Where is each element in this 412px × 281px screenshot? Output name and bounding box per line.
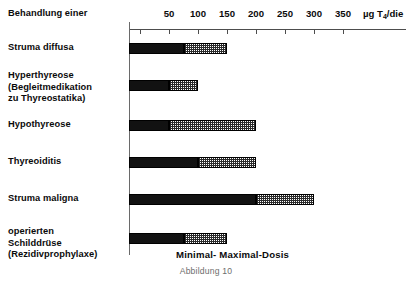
bar-hyperthyreose — [129, 80, 198, 91]
figure-caption: Abbildung 10 — [0, 266, 412, 276]
bar-segment-maximal — [198, 157, 256, 168]
x-axis-unit-text: µg T — [363, 8, 383, 19]
bar-segment-maximal — [184, 43, 228, 54]
x-tick-300 — [314, 30, 315, 34]
category-label-struma-maligna: Struma maligna — [8, 193, 126, 205]
category-label-operierte-schilddruese: operierten Schilddrüse (Rezidivprophylax… — [8, 226, 126, 261]
bar-segment-minimal — [129, 233, 184, 244]
x-tick-label-350: 350 — [335, 8, 351, 19]
bar-operierte-schilddruese — [129, 233, 227, 244]
x-tick-350 — [343, 30, 344, 34]
bar-struma-diffusa — [129, 43, 227, 54]
figure-chart-thyroid-dosing: Behandlung einer Struma diffusa Hyperthy… — [0, 0, 412, 281]
x-tick-100 — [198, 30, 199, 34]
x-axis-unit-tail: /die — [387, 8, 404, 19]
category-label-hypothyreose: Hypothyreose — [8, 119, 126, 131]
bar-segment-maximal — [256, 194, 314, 205]
x-tick-50 — [169, 30, 170, 34]
bar-thyreoiditis — [129, 157, 256, 168]
x-tick-label-50: 50 — [164, 8, 175, 19]
x-tick-label-100: 100 — [190, 8, 206, 19]
bar-segment-minimal — [129, 120, 169, 131]
category-label-line: operierten — [8, 226, 126, 238]
x-tick-label-250: 250 — [277, 8, 293, 19]
x-tick-label-300: 300 — [306, 8, 322, 19]
bar-segment-minimal — [129, 43, 184, 54]
bar-struma-maligna — [129, 194, 314, 205]
chart-row-header: Behandlung einer — [8, 8, 126, 20]
category-label-line: Hyperthyreose — [8, 70, 126, 82]
category-label-line: Schilddrüse — [8, 238, 126, 250]
category-label-line: (Begleitmedikation — [8, 82, 126, 94]
bar-segment-minimal — [129, 157, 198, 168]
x-tick-label-150: 150 — [219, 8, 235, 19]
x-tick-250 — [285, 30, 286, 34]
category-label-struma-diffusa: Struma diffusa — [8, 42, 126, 54]
x-axis-unit-subscript: 4 — [383, 13, 387, 20]
category-label-thyreoiditis: Thyreoiditis — [8, 156, 126, 168]
bar-segment-maximal — [169, 80, 198, 91]
x-tick-0 — [140, 30, 141, 34]
bar-segment-maximal — [184, 233, 228, 244]
x-tick-150 — [227, 30, 228, 34]
x-axis-unit-label: µg T4/die — [363, 8, 403, 19]
category-label-line: zu Thyreostatika) — [8, 93, 126, 105]
y-axis-line — [129, 22, 130, 255]
bar-segment-maximal — [169, 120, 256, 131]
x-tick-200 — [256, 30, 257, 34]
bar-segment-minimal — [129, 194, 256, 205]
x-axis-line — [129, 29, 406, 30]
bar-hypothyreose — [129, 120, 256, 131]
category-label-hyperthyreose: Hyperthyreose (Begleitmedikation zu Thyr… — [8, 70, 126, 105]
x-tick-label-200: 200 — [248, 8, 264, 19]
category-label-line: (Rezidivprophylaxe) — [8, 249, 126, 261]
bar-segment-minimal — [129, 80, 169, 91]
chart-legend: Minimal- Maximal-Dosis — [176, 249, 289, 260]
